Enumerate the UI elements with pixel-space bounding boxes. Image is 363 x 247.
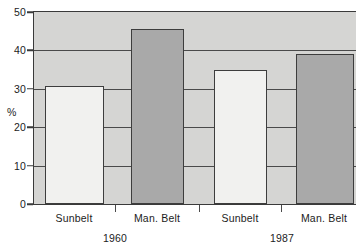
y-tick-label-10: 10 <box>14 160 26 172</box>
y-axis: 50 40 30 % 20 10 0 <box>0 0 33 247</box>
y-tick-mark-20 <box>27 126 33 128</box>
bar-sunbelt-1960 <box>45 86 104 204</box>
bar-man-belt-1960 <box>131 29 184 205</box>
x-label-man-belt-1987: Man. Belt <box>301 212 347 224</box>
y-tick-mark-50 <box>27 11 33 13</box>
y-tick-mark-30 <box>27 88 33 90</box>
y-tick-label-50: 50 <box>14 6 26 18</box>
bar-sunbelt-1987 <box>214 70 267 204</box>
x-tick-mark-group-divider <box>199 205 200 212</box>
y-tick-label-20: 20 <box>14 121 26 133</box>
bars-layer <box>34 12 356 204</box>
x-group-label-1987: 1987 <box>270 232 294 244</box>
y-tick-mark-10 <box>27 165 33 167</box>
x-tick-mark-1960-mid <box>115 205 116 212</box>
x-group-label-1960: 1960 <box>103 232 127 244</box>
x-label-man-belt-1960: Man. Belt <box>134 212 180 224</box>
y-tick-label-40: 40 <box>14 44 26 56</box>
bar-man-belt-1987 <box>296 54 354 204</box>
y-tick-label-0: 0 <box>20 198 26 210</box>
y-tick-mark-0 <box>27 203 33 205</box>
y-axis-title: % <box>7 106 16 118</box>
x-label-sunbelt-1987: Sunbelt <box>221 212 258 224</box>
plot-area <box>33 11 356 205</box>
x-label-sunbelt-1960: Sunbelt <box>55 212 92 224</box>
x-tick-mark-1987-mid <box>281 205 282 212</box>
y-tick-mark-40 <box>27 50 33 52</box>
y-tick-label-30: 30 <box>14 83 26 95</box>
bar-chart: 50 40 30 % 20 10 0 Sunbelt Man. Belt Sun… <box>0 0 363 247</box>
